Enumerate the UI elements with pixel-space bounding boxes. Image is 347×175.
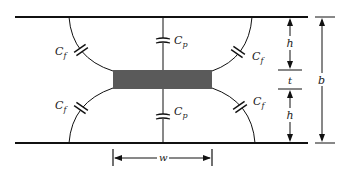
b-dimension: b [318,18,325,142]
center-strip-conductor [113,70,212,89]
cf-top-left-label: Cf [55,45,68,60]
cp-top-label: Cp [174,34,188,49]
cf-top-right-arc [212,17,252,71]
cf-bottom-right-label: Cf [253,95,266,110]
h-top-dimension: h [287,18,294,69]
cf-top-left-arc [69,17,113,71]
cf-top-right-label: Cf [252,50,265,65]
h-bottom-dimension: h [287,90,294,142]
cf-bottom-left-arc [69,88,113,143]
w-label: w [159,152,168,163]
cp-top-capacitor-icon [155,38,171,43]
h-bottom-label: h [287,109,294,122]
t-label: t [288,75,293,86]
stripline-diagram: Cf Cp Cf Cf Cp Cf h t h b [0,0,347,175]
b-label: b [318,74,325,87]
cp-bottom-capacitor-icon [155,114,171,119]
cf-top-left-capacitor-icon [74,44,88,55]
cf-bottom-left-label: Cf [55,99,68,114]
h-top-label: h [287,37,294,50]
cf-bottom-right-arc [212,88,255,143]
w-dimension: w [113,149,212,166]
cp-bottom-label: Cp [174,105,188,120]
